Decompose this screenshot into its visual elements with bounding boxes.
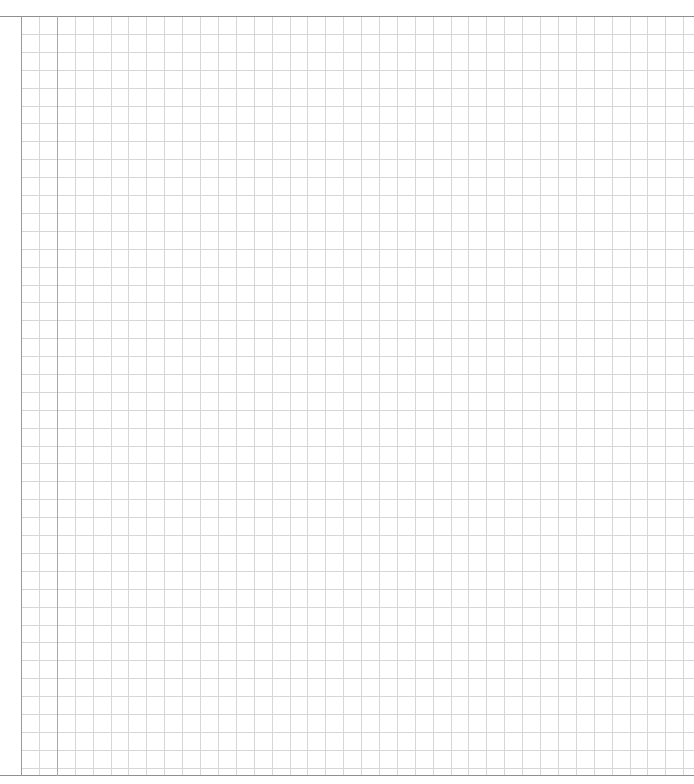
graph-paper-sheet [0, 0, 694, 784]
left-border [21, 16, 22, 776]
grid-lines [0, 0, 694, 784]
top-border [0, 16, 694, 17]
bottom-border [0, 775, 694, 776]
margin-line [57, 16, 58, 776]
